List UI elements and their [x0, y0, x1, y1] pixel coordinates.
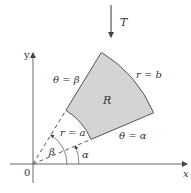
r-outer-label: r = b [136, 69, 162, 80]
angle-alpha-label: α [82, 149, 89, 160]
angle-beta-label: β [48, 146, 55, 157]
theta-beta-label: θ = β [53, 74, 80, 85]
r-inner-label: r = a [60, 127, 86, 138]
region-label: R [102, 94, 111, 107]
y-axis-label: y [23, 49, 30, 60]
transform-label: T [120, 16, 129, 29]
angle-alpha-arc [75, 146, 79, 164]
origin-label: 0 [24, 167, 30, 178]
x-axis-label: x [183, 168, 189, 179]
polar-region-diagram: T y x 0 θ = β r = b R r = a θ = α β α [0, 0, 191, 193]
theta-alpha-label: θ = α [119, 130, 147, 141]
